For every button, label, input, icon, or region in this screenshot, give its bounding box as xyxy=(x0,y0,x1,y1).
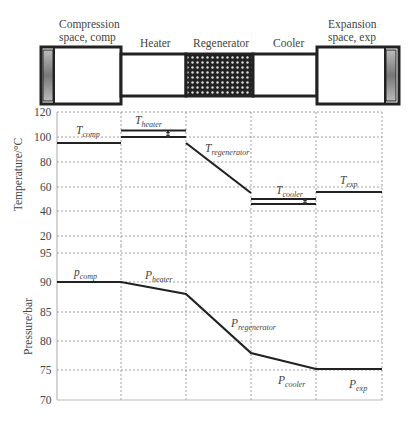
p-heater-label: Pheater xyxy=(145,269,172,286)
p-cooler-label: Pcooler xyxy=(278,374,305,391)
heater xyxy=(121,54,186,96)
pressure-tick: 85 xyxy=(40,306,52,319)
regenerator xyxy=(186,54,253,96)
expansion-space xyxy=(317,47,399,104)
t-comp-label: Tcomp xyxy=(76,124,100,141)
heater-label: Heater xyxy=(140,37,171,50)
pressure-tick: 75 xyxy=(40,364,52,377)
regenerator-label: Regenerator xyxy=(193,37,249,50)
p-exp-label: Pexp xyxy=(349,378,367,395)
pressure-tick: 95 xyxy=(40,247,52,260)
comp-label-line1: Compression xyxy=(59,18,120,31)
pressure-y-axis-label: Pressure/bar xyxy=(22,287,35,367)
temp-tick: 120 xyxy=(34,106,51,119)
comp-label-line2: space, comp xyxy=(59,31,116,44)
t-exp-label: Texp xyxy=(340,174,358,191)
temp-tick: 60 xyxy=(40,181,52,194)
pressure-tick: 70 xyxy=(40,394,52,407)
temp-y-axis-label: Temperature/°C xyxy=(12,130,25,220)
double-arrow-icon xyxy=(167,131,170,137)
temp-tick: 80 xyxy=(40,156,52,169)
pressure-line xyxy=(57,282,382,369)
p-comp-label: pcomp xyxy=(74,266,97,283)
pressure-tick: 90 xyxy=(40,276,52,289)
cooler-label: Cooler xyxy=(273,37,304,50)
exp-label-line1: Expansion xyxy=(328,18,377,31)
double-arrow-icon xyxy=(304,199,307,205)
temp-tick: 100 xyxy=(34,131,51,144)
temperature-chart xyxy=(57,112,382,246)
p-regenerator-label: Pregenerator xyxy=(231,317,276,334)
pressure-tick: 80 xyxy=(40,335,52,348)
cooler xyxy=(253,54,317,96)
stirling-schematic xyxy=(0,0,419,428)
temp-tick: 20 xyxy=(40,230,52,243)
temp-tick: 40 xyxy=(40,205,52,218)
t-cooler-label: Tcooler xyxy=(276,184,303,201)
compression-space xyxy=(41,47,121,104)
t-heater-label: Theater xyxy=(135,114,162,131)
t-regenerator-label: Tregenerator xyxy=(205,142,249,159)
exp-label-line2: space, exp xyxy=(328,31,376,44)
